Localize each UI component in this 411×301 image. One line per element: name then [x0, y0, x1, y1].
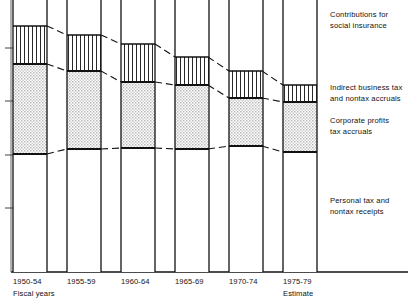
segment-corporate: [175, 85, 209, 149]
bar-group-1970-74[interactable]: [229, 0, 263, 272]
legend-corporate-line2: tax accruals: [330, 127, 372, 136]
segment-contributions: [175, 57, 209, 85]
bar-group-1950-54[interactable]: [13, 0, 47, 272]
bar-group-1975-79[interactable]: [283, 0, 317, 272]
segment-contributions: [283, 85, 317, 102]
x-axis-label-1950-54: 1950-54: [13, 277, 42, 286]
legend-indirect-line1: Indirect business tax: [330, 83, 402, 92]
legend-contributions-line1: Contributions for: [330, 10, 389, 19]
segment-corporate: [13, 64, 47, 154]
segment-corporate: [121, 82, 155, 148]
legend-personal-line2: nontax receipts: [330, 207, 384, 216]
chart-svg: Contributions for social insurance Indir…: [0, 0, 411, 301]
x-axis-label-1975-79: 1975-79: [283, 277, 312, 286]
x-axis-label-1955-59: 1955-59: [67, 277, 96, 286]
legend-corporate-line1: Corporate profits: [330, 116, 389, 125]
segment-contributions: [121, 44, 155, 82]
legend-personal-line1: Personal tax and: [330, 196, 389, 205]
x-axis-caption-estimate: Estimate: [283, 289, 313, 298]
bar-group-1960-64[interactable]: [121, 0, 155, 272]
bar-group-1955-59[interactable]: [67, 0, 101, 272]
stacked-bar-chart: Contributions for social insurance Indir…: [0, 0, 411, 301]
x-axis-caption-fiscal-years: Fiscal years: [13, 289, 55, 298]
segment-contributions: [67, 35, 101, 71]
segment-corporate: [67, 71, 101, 149]
x-axis-label-1965-69: 1965-69: [175, 277, 204, 286]
segment-corporate: [229, 98, 263, 146]
segment-corporate: [283, 102, 317, 152]
segment-contributions: [13, 26, 47, 64]
x-axis-label-1960-64: 1960-64: [121, 277, 150, 286]
legend-contributions-line2: social insurance: [330, 21, 387, 30]
x-axis-label-1970-74: 1970-74: [229, 277, 258, 286]
segment-contributions: [229, 71, 263, 98]
legend-indirect-line2: and nontax accruals: [330, 94, 401, 103]
bar-group-1965-69[interactable]: [175, 0, 209, 272]
